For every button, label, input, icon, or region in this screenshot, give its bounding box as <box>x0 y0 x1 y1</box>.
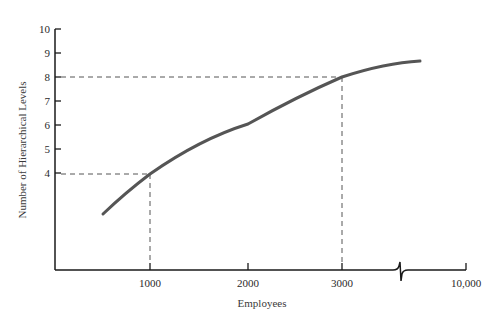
reference-lines <box>61 77 342 263</box>
y-axis-label: Number of Hierarchical Levels <box>16 81 28 218</box>
y-tick-7: 7 <box>45 95 51 107</box>
x-tick-3000: 3000 <box>331 277 354 289</box>
y-tick-10: 10 <box>39 23 51 35</box>
x-tick-10000: 10,000 <box>451 277 482 289</box>
y-tick-4: 4 <box>45 167 51 179</box>
y-tick-labels: 10 9 8 7 6 5 4 <box>39 23 51 179</box>
x-tick-2000: 2000 <box>237 277 260 289</box>
x-tick-labels: 1000 2000 3000 10,000 <box>139 277 482 289</box>
x-axis <box>55 262 466 281</box>
y-tick-9: 9 <box>45 47 51 59</box>
y-axis <box>55 29 61 270</box>
x-tick-1000: 1000 <box>139 277 162 289</box>
x-axis-label: Employees <box>238 297 287 309</box>
y-tick-5: 5 <box>45 143 51 155</box>
data-curve <box>103 61 420 214</box>
y-tick-8: 8 <box>45 71 51 83</box>
y-tick-6: 6 <box>45 119 51 131</box>
chart: 10 9 8 7 6 5 4 1000 2000 3000 10,000 Emp… <box>0 0 496 325</box>
